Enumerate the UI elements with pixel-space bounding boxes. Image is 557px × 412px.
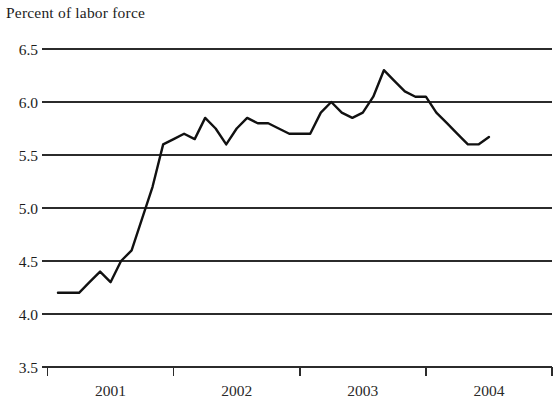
x-tick-label-2003: 2003 — [347, 382, 378, 399]
y-tick-labels-group: 3.54.04.55.05.56.06.5 — [19, 41, 48, 376]
x-axis-group — [48, 367, 553, 376]
y-tick-label-4.0: 4.0 — [19, 306, 39, 323]
gridlines-group — [48, 49, 553, 314]
x-tick-labels-group: 2001200220032004 — [95, 382, 505, 399]
unemployment-rate-chart: Percent of labor force 3.54.04.55.05.56.… — [0, 0, 557, 412]
chart-plot-area: 3.54.04.55.05.56.06.5 2001200220032004 — [0, 0, 557, 412]
x-tick-label-2004: 2004 — [473, 382, 504, 399]
y-tick-label-3.5: 3.5 — [19, 359, 39, 376]
y-tick-label-6.5: 6.5 — [19, 41, 39, 58]
y-tick-label-4.5: 4.5 — [19, 253, 39, 270]
data-line-1 — [58, 70, 489, 293]
x-tick-label-2001: 2001 — [95, 382, 126, 399]
y-tick-label-5.5: 5.5 — [19, 147, 39, 164]
y-tick-label-6.0: 6.0 — [19, 94, 39, 111]
y-tick-label-5.0: 5.0 — [19, 200, 39, 217]
data-series-group — [58, 70, 489, 293]
x-tick-label-2002: 2002 — [221, 382, 252, 399]
